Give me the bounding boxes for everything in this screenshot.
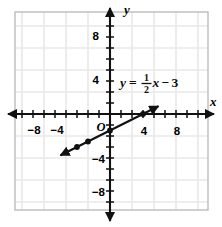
- coordinate-graph: −8 −4 4 8 8 4 −4 −8 O y x y = 1 2 x − 3: [0, 0, 222, 227]
- y-tick-label-neg4: −4: [92, 153, 106, 165]
- origin-label: O: [96, 120, 105, 134]
- x-tick-label-8: 8: [174, 125, 181, 137]
- equation-variable: x: [152, 75, 160, 90]
- data-point: [85, 139, 91, 145]
- data-point: [74, 144, 80, 150]
- y-tick-label-neg8: −8: [92, 186, 106, 198]
- y-axis-label: y: [122, 2, 130, 17]
- x-tick-label-4: 4: [141, 125, 148, 137]
- graph-canvas: −8 −4 4 8 8 4 −4 −8 O y x y = 1 2 x − 3: [0, 0, 222, 227]
- equation-fraction-denominator: 2: [144, 84, 149, 95]
- equation-fraction-numerator: 1: [144, 72, 149, 83]
- x-tick-label-neg8: −8: [27, 124, 41, 136]
- y-tick-label-8: 8: [93, 30, 100, 42]
- y-tick-label-4: 4: [93, 74, 100, 86]
- data-point: [107, 128, 113, 134]
- x-tick-label-neg4: −4: [50, 124, 64, 136]
- equation-minus: −: [162, 75, 170, 90]
- equation-lhs: y: [118, 75, 127, 90]
- data-point: [140, 111, 146, 117]
- equation-constant: 3: [172, 75, 179, 90]
- x-axis-label: x: [209, 94, 217, 109]
- equation-equals: =: [129, 75, 137, 90]
